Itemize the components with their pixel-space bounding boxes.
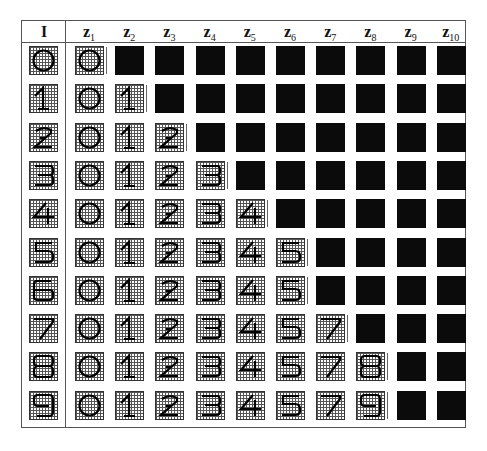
output-r7-z6-digit-five-icon	[276, 314, 305, 343]
output-r5-z1-digit-zero-icon	[75, 238, 104, 267]
input-row-2-digit-two-icon	[29, 123, 58, 152]
output-r2-z3-digit-two-icon	[155, 123, 184, 152]
output-r7-z4-digit-three-icon	[196, 314, 225, 343]
cursor-marker	[307, 239, 308, 266]
column-header-z10: z10	[433, 23, 469, 43]
output-r5-z8-empty-cell	[356, 238, 385, 267]
results-table: I z1z2z3z4z5z6z7z8z9z10	[21, 20, 466, 428]
output-r1-z10-empty-cell	[437, 84, 466, 113]
column-header-z1: z1	[71, 23, 107, 43]
output-r2-z8-empty-cell	[356, 123, 385, 152]
output-r6-z9-empty-cell	[397, 276, 426, 305]
output-r1-z8-empty-cell	[356, 84, 385, 113]
output-r2-z1-digit-zero-icon	[75, 123, 104, 152]
output-r4-z7-empty-cell	[316, 199, 345, 228]
output-r6-z8-empty-cell	[356, 276, 385, 305]
input-row-0-digit-zero-icon	[29, 46, 58, 75]
input-row-4-digit-four-icon	[29, 199, 58, 228]
output-r2-z2-digit-one-icon	[115, 123, 144, 152]
output-r8-z6-digit-five-icon	[276, 352, 305, 381]
column-header-z5: z5	[232, 23, 268, 43]
input-header: I	[26, 23, 62, 41]
output-r9-z1-digit-zero-icon	[75, 391, 104, 420]
output-r3-z6-empty-cell	[276, 161, 305, 190]
output-r4-z2-digit-one-icon	[115, 199, 144, 228]
output-r6-z3-digit-two-icon	[155, 276, 184, 305]
input-row-9-digit-nine-icon	[29, 391, 58, 420]
output-r4-z1-digit-zero-icon	[75, 199, 104, 228]
cursor-marker	[106, 47, 107, 74]
output-r8-z1-digit-zero-icon	[75, 352, 104, 381]
output-r0-z4-empty-cell	[196, 46, 225, 75]
output-r9-z2-digit-one-icon	[115, 391, 144, 420]
output-r5-z9-empty-cell	[397, 238, 426, 267]
output-r7-z1-digit-zero-icon	[75, 314, 104, 343]
cursor-marker	[387, 353, 388, 380]
output-r9-z7-digit-seven-icon	[316, 391, 345, 420]
output-r9-z6-digit-five-icon	[276, 391, 305, 420]
output-r3-z7-empty-cell	[316, 161, 345, 190]
cursor-marker	[186, 124, 187, 151]
output-r0-z10-empty-cell	[437, 46, 466, 75]
output-r9-z4-digit-three-icon	[196, 391, 225, 420]
output-r0-z3-empty-cell	[155, 46, 184, 75]
cursor-marker	[267, 200, 268, 227]
output-r3-z3-digit-two-icon	[155, 161, 184, 190]
output-r0-z2-empty-cell	[115, 46, 144, 75]
output-r1-z2-digit-one-icon	[115, 84, 144, 113]
output-r1-z6-empty-cell	[276, 84, 305, 113]
column-divider	[65, 21, 66, 427]
column-header-z9: z9	[393, 23, 429, 43]
output-r7-z10-empty-cell	[437, 314, 466, 343]
output-r1-z9-empty-cell	[397, 84, 426, 113]
cursor-marker	[307, 277, 308, 304]
output-r2-z10-empty-cell	[437, 123, 466, 152]
cursor-marker	[347, 315, 348, 342]
output-r8-z7-digit-seven-icon	[316, 352, 345, 381]
output-r0-z7-empty-cell	[316, 46, 345, 75]
output-r1-z3-empty-cell	[155, 84, 184, 113]
output-r7-z3-digit-two-icon	[155, 314, 184, 343]
output-r9-z10-empty-cell	[437, 391, 466, 420]
output-r3-z9-empty-cell	[397, 161, 426, 190]
output-r1-z4-empty-cell	[196, 84, 225, 113]
output-r9-z8-digit-nine-icon	[356, 391, 385, 420]
output-r4-z8-empty-cell	[356, 199, 385, 228]
output-r3-z4-digit-three-icon	[196, 161, 225, 190]
output-r6-z10-empty-cell	[437, 276, 466, 305]
output-r3-z2-digit-one-icon	[115, 161, 144, 190]
output-r9-z3-digit-two-icon	[155, 391, 184, 420]
output-r1-z7-empty-cell	[316, 84, 345, 113]
output-r4-z5-digit-four-icon	[236, 199, 265, 228]
column-header-z2: z2	[111, 23, 147, 43]
output-r4-z10-empty-cell	[437, 199, 466, 228]
output-r2-z4-empty-cell	[196, 123, 225, 152]
column-header-z7: z7	[312, 23, 348, 43]
output-r4-z3-digit-two-icon	[155, 199, 184, 228]
output-r4-z6-empty-cell	[276, 199, 305, 228]
output-r5-z6-digit-five-icon	[276, 238, 305, 267]
output-r7-z8-empty-cell	[356, 314, 385, 343]
output-r2-z5-empty-cell	[236, 123, 265, 152]
output-r7-z9-empty-cell	[397, 314, 426, 343]
cursor-marker	[227, 162, 228, 189]
output-r3-z10-empty-cell	[437, 161, 466, 190]
input-row-8-digit-eight-icon	[29, 352, 58, 381]
output-r6-z6-digit-five-icon	[276, 276, 305, 305]
input-row-3-digit-three-icon	[29, 161, 58, 190]
output-r8-z4-digit-three-icon	[196, 352, 225, 381]
output-r9-z9-empty-cell	[397, 391, 426, 420]
output-r2-z6-empty-cell	[276, 123, 305, 152]
output-r0-z1-digit-zero-icon	[75, 46, 104, 75]
output-r5-z7-empty-cell	[316, 238, 345, 267]
output-r5-z10-empty-cell	[437, 238, 466, 267]
input-row-5-digit-five-icon	[29, 238, 58, 267]
output-r6-z2-digit-one-icon	[115, 276, 144, 305]
output-r9-z5-digit-four-icon	[236, 391, 265, 420]
output-r8-z8-digit-eight-icon	[356, 352, 385, 381]
output-r0-z8-empty-cell	[356, 46, 385, 75]
output-r7-z2-digit-one-icon	[115, 314, 144, 343]
output-r2-z7-empty-cell	[316, 123, 345, 152]
output-r3-z5-empty-cell	[236, 161, 265, 190]
input-row-6-digit-six-icon	[29, 276, 58, 305]
